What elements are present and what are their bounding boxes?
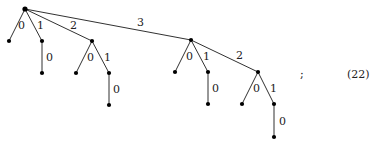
edge-label: 0 [186,50,193,63]
semicolon: ; [300,68,304,81]
tree-node [107,71,111,75]
edge-label: 0 [46,51,53,64]
tree-node [40,71,44,75]
tree-node [7,39,11,43]
edge-label: 1 [270,82,277,95]
tree-edge [25,9,191,40]
tree-node [189,38,193,42]
edge-label: 0 [253,82,260,95]
edge-label: 0 [87,51,94,64]
edge-label: 1 [104,51,111,64]
tree-node [256,70,260,74]
tree-node [74,71,78,75]
tree-diagram: 010201030102010 ; (22) [0,0,382,141]
edge-label: 1 [37,19,44,32]
tree-node [272,102,276,106]
edge-label: 2 [236,49,243,62]
tree-node [272,135,276,139]
edge-label: 3 [137,16,144,29]
tree-node [107,103,111,107]
equation-number: (22) [347,68,370,81]
tree-node [22,6,27,11]
edge-label: 1 [203,50,210,63]
edge-label: 0 [113,83,120,96]
tree-node [90,39,94,43]
tree-node [206,102,210,106]
edge-label: 2 [70,19,77,32]
tree-node [206,70,210,74]
edge-label: 0 [279,115,286,128]
edge-label: 0 [18,19,25,32]
edge-label: 0 [212,82,219,95]
tree-edge [191,40,258,72]
tree-node [173,70,177,74]
tree-node [40,39,44,43]
tree-node [240,102,244,106]
tree-edge [25,9,92,41]
